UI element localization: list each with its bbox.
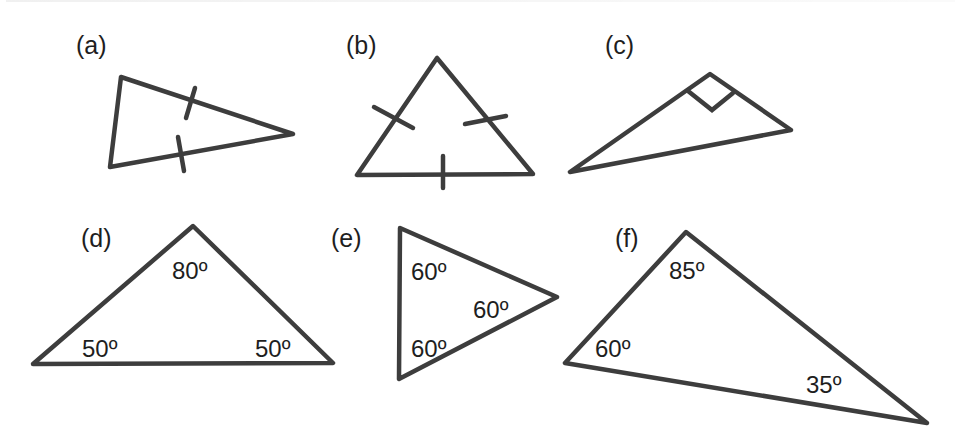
triangle-a — [110, 77, 293, 171]
angle-label-f-right: 35º — [806, 373, 841, 397]
angle-label-e-right: 60º — [473, 298, 508, 322]
triangle-f-outline — [565, 232, 927, 423]
part-label-b: (b) — [346, 33, 377, 58]
triangle-c — [570, 74, 791, 172]
angle-label-d-top: 80º — [172, 259, 207, 283]
triangle-a-outline — [110, 77, 293, 167]
triangle-f — [565, 232, 927, 423]
angle-label-f-top: 85º — [669, 259, 704, 283]
angle-label-e-top: 60º — [411, 260, 446, 284]
right-angle-marker — [688, 91, 733, 110]
part-label-a: (a) — [76, 33, 107, 58]
part-label-d: (d) — [81, 226, 112, 251]
angle-label-d-left: 50º — [82, 337, 117, 361]
angle-label-f-left: 60º — [595, 337, 630, 361]
tick-mark — [178, 137, 184, 171]
part-label-c: (c) — [605, 33, 634, 58]
part-label-e: (e) — [331, 226, 362, 251]
triangle-c-outline — [570, 74, 791, 172]
angle-label-d-right: 50º — [255, 337, 290, 361]
triangle-b — [357, 58, 533, 188]
part-label-f: (f) — [615, 226, 639, 251]
angle-label-e-bottom: 60º — [411, 337, 446, 361]
